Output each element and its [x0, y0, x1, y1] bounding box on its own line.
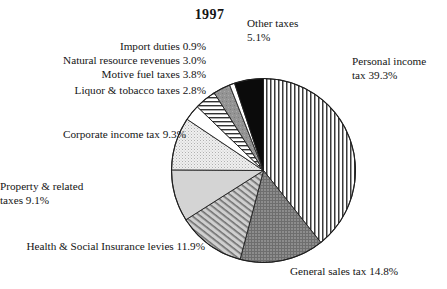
callout-property-related-line1: Property & related	[0, 180, 153, 194]
callout-natural-resource-revenues: Natural resource revenues 3.0%	[0, 54, 206, 68]
callout-liquor-tobacco-taxes: Liquor & tobacco taxes 2.8%	[0, 84, 206, 98]
pie-slice-group: Personal income tax 39.3%General sales t…	[171, 79, 355, 263]
callout-personal-income-tax: Personal income tax 39.3%	[352, 55, 447, 82]
callout-general-sales-tax: General sales tax 14.8%	[290, 265, 447, 279]
callout-import-duties: Import duties 0.9%	[0, 40, 206, 54]
chart-title: 1997	[0, 7, 433, 23]
callout-personal-income-line1: Personal income	[352, 55, 447, 69]
callout-corporate-income-tax: Corporate income tax 9.3%	[0, 128, 186, 142]
callout-property-related-line2: taxes 9.1%	[0, 194, 153, 208]
callout-other-taxes: Other taxes 5.1%	[247, 17, 339, 44]
callout-health-social-insurance-levies: Health & Social Insurance levies 11.9%	[0, 240, 205, 254]
callout-other-taxes-line2: 5.1%	[247, 31, 339, 45]
callout-motive-fuel-taxes: Motive fuel taxes 3.8%	[0, 68, 206, 82]
pie-chart-figure: 1997	[0, 0, 447, 289]
callout-property-related-taxes: Property & related taxes 9.1%	[0, 180, 153, 207]
pie-chart-graphic: Personal income tax 39.3%General sales t…	[170, 77, 357, 264]
pie-svg: Personal income tax 39.3%General sales t…	[170, 77, 357, 264]
callout-personal-income-line2: tax 39.3%	[352, 69, 447, 83]
callout-other-taxes-line1: Other taxes	[247, 17, 339, 31]
